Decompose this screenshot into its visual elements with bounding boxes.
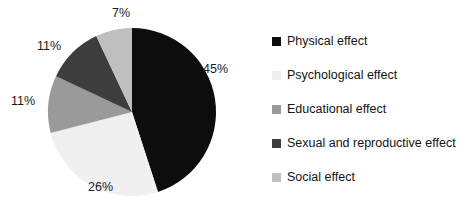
chart-legend: Physical effectPsychological effectEduca… (272, 24, 472, 194)
pie-plot-area: 45% 26% 11% 11% 7% (0, 0, 250, 213)
pie-slice-group (48, 28, 216, 196)
legend-item[interactable]: Psychological effect (272, 58, 472, 92)
slice-value-label-psychological: 26% (88, 180, 113, 194)
legend-item[interactable]: Social effect (272, 160, 472, 194)
legend-item[interactable]: Sexual and reproductive effect (272, 126, 472, 160)
legend-swatch-icon (272, 139, 281, 148)
pie-chart-figure: 45% 26% 11% 11% 7% Physical effectPsycho… (0, 0, 474, 213)
legend-swatch-icon (272, 173, 281, 182)
legend-item-label: Physical effect (287, 35, 367, 48)
slice-value-label-physical: 45% (203, 62, 228, 76)
legend-item-label: Social effect (287, 171, 355, 184)
legend-swatch-icon (272, 71, 281, 80)
slice-value-label-educational: 11% (11, 94, 35, 108)
legend-item-label: Educational effect (287, 103, 386, 116)
slice-value-label-sexual-reproductive: 11% (37, 39, 61, 53)
legend-item[interactable]: Educational effect (272, 92, 472, 126)
pie-svg (0, 0, 250, 213)
legend-swatch-icon (272, 105, 281, 114)
legend-item-label: Psychological effect (287, 69, 397, 82)
legend-item[interactable]: Physical effect (272, 24, 472, 58)
legend-item-label: Sexual and reproductive effect (287, 137, 456, 150)
legend-swatch-icon (272, 37, 281, 46)
slice-value-label-social: 7% (112, 6, 130, 20)
